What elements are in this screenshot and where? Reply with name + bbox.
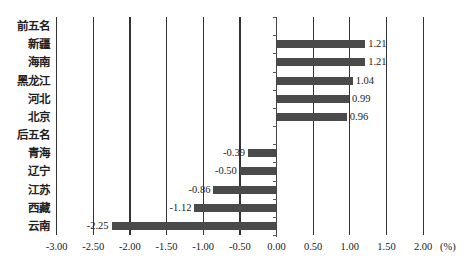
value-label: -1.12 [170, 202, 192, 214]
x-tick-label: -1.50 [147, 241, 187, 252]
axis-tick [273, 144, 277, 145]
value-label: 1.21 [368, 38, 386, 50]
axis-tick [273, 199, 277, 200]
value-label: -0.39 [223, 147, 245, 159]
gridline [93, 17, 94, 235]
axis-tick [273, 162, 277, 163]
axis-tick [273, 126, 277, 127]
x-tick-label: -3.00 [37, 241, 77, 252]
value-label: 1.04 [356, 75, 374, 87]
x-tick-label: -2.00 [110, 241, 150, 252]
x-tick-label: -2.50 [73, 241, 113, 252]
value-label: 0.99 [352, 93, 370, 105]
axis-tick [273, 35, 277, 36]
x-tick-label: 2.00 [403, 241, 443, 252]
x-tick-label: -0.50 [220, 241, 260, 252]
x-tick-label: -1.00 [183, 241, 223, 252]
category-label: 海南 [28, 55, 50, 69]
x-tick-label: 1.50 [366, 241, 406, 252]
category-label: 后五名 [17, 128, 50, 142]
gridline [423, 17, 424, 235]
value-label: 0.96 [350, 111, 368, 123]
gridline [203, 17, 204, 235]
bar [112, 222, 277, 230]
value-label: -0.86 [189, 184, 211, 196]
axis-tick [273, 53, 277, 54]
gridline [166, 17, 167, 235]
category-label: 辽宁 [28, 164, 50, 178]
category-label: 前五名 [17, 19, 50, 33]
gridline [239, 17, 240, 235]
category-label: 西藏 [28, 201, 50, 215]
axis-tick [273, 217, 277, 218]
axis-tick [273, 72, 277, 73]
bar [248, 149, 277, 157]
x-tick-label: 1.00 [330, 241, 370, 252]
bar [277, 40, 366, 48]
bar [240, 167, 277, 175]
x-tick-label: 0.00 [257, 241, 297, 252]
value-label: 1.21 [368, 56, 386, 68]
bar [194, 204, 276, 212]
axis-tick [273, 181, 277, 182]
category-label: 黑龙江 [17, 74, 50, 88]
bar [213, 186, 276, 194]
category-label: 云南 [28, 219, 50, 233]
category-label: 青海 [28, 146, 50, 160]
bar [277, 113, 347, 121]
x-axis-unit: (%) [440, 241, 456, 252]
value-label: -0.50 [215, 165, 237, 177]
bar [277, 77, 353, 85]
category-label: 北京 [28, 110, 50, 124]
bar [277, 95, 350, 103]
category-label: 新疆 [28, 37, 50, 51]
gridline [313, 17, 314, 235]
gridline [349, 17, 350, 235]
category-label: 河北 [28, 92, 50, 106]
value-label: -2.25 [87, 220, 109, 232]
category-label: 江苏 [28, 183, 50, 197]
axis-tick [273, 17, 277, 18]
gridline [56, 17, 57, 235]
axis-tick [273, 235, 277, 236]
horizontal-bar-chart: 前五名新疆1.21海南1.21黑龙江1.04河北0.99北京0.96后五名青海-… [0, 0, 466, 268]
axis-tick [273, 108, 277, 109]
gridline [129, 17, 130, 235]
axis-tick [273, 90, 277, 91]
x-tick-label: 0.50 [293, 241, 333, 252]
bar [277, 58, 366, 66]
